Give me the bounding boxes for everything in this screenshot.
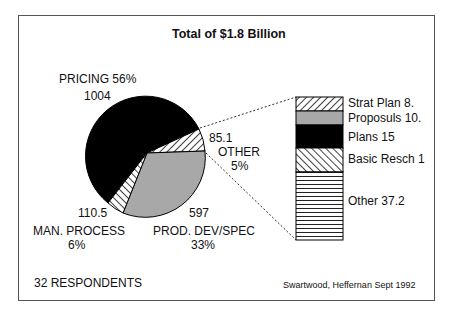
label-pricing-value: 1004 [84,90,111,103]
chart-title: Total of $1.8 Billion [172,28,286,41]
source-note: Swartwood, Heffernan Sept 1992 [283,279,415,292]
label-other-name: OTHER [218,146,260,159]
pie-chart [86,96,206,217]
bar-label-strat-plan: Strat Plan 8. [348,97,414,110]
bar-label-plans: Plans 15 [348,131,395,144]
label-man-value: 110.5 [78,207,107,220]
label-other-pct: 5% [231,160,248,173]
bar-seg-strat-plan [296,97,343,111]
label-man-pct: 6% [68,239,85,252]
breakdown-bar [296,97,343,240]
label-prod-value: 597 [189,207,209,220]
bar-label-other: Other 37.2 [348,195,405,208]
label-other-value: 85.1 [209,132,232,145]
respondents-note: 32 RESPONDENTS [34,277,142,290]
label-prod-pct: 33% [191,239,215,252]
label-prod-name: PROD. DEV/SPEC [153,225,255,238]
bar-label-proposals: Proposuls 10. [348,112,421,125]
bar-seg-basic-resch [296,148,343,172]
connector-top [200,97,296,128]
label-man-name: MAN. PROCESS [33,225,125,238]
bar-seg-other [296,172,343,240]
label-pricing: PRICING 56% [59,73,136,86]
bar-seg-plans [296,125,343,148]
bar-seg-proposals [296,111,343,125]
bar-label-basic-resch: Basic Resch 1 [348,153,425,166]
